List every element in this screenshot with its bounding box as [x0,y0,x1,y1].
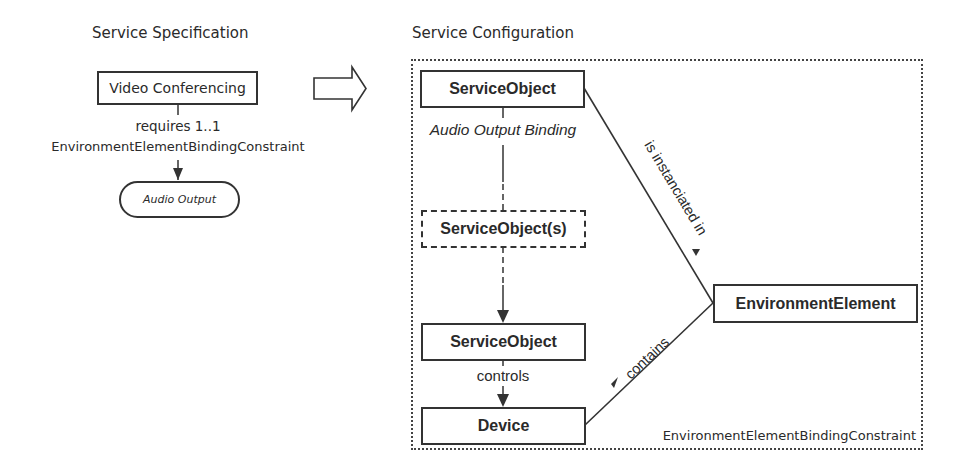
instanciated-edge [584,88,713,303]
service-object-top-label: ServiceObject [449,80,556,98]
service-object-bottom-label: ServiceObject [450,333,557,351]
controls-arrowhead-icon [497,394,509,407]
environment-element-node: EnvironmentElement [713,284,918,323]
audio-output-binding-label: Audio Output Binding [430,121,577,139]
contains-direction-icon [611,377,618,388]
binding-arrowhead-icon [497,310,509,323]
device-node: Device [421,407,586,445]
controls-label: controls [477,367,530,384]
service-objects-intermediate-label: ServiceObject(s) [440,220,566,238]
instanciated-direction-icon [692,249,700,256]
service-object-top-node: ServiceObject [420,70,585,108]
device-label: Device [478,417,530,435]
requires-arrowhead-icon [173,168,183,180]
block-arrow-right-icon [314,67,366,110]
service-objects-intermediate-node: ServiceObject(s) [421,210,586,248]
environment-element-label: EnvironmentElement [735,295,895,313]
service-object-bottom-node: ServiceObject [421,323,586,361]
